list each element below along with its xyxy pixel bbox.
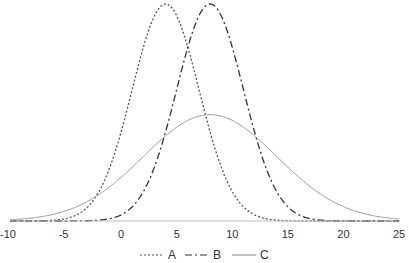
x-tick-label: 10 [226, 228, 238, 240]
x-axis-ticks: -10-50510152025 [0, 228, 405, 240]
x-tick-label: 15 [282, 228, 294, 240]
x-tick-label: 25 [393, 228, 405, 240]
plot-area [10, 4, 399, 221]
series-c-line [10, 115, 399, 220]
x-tick-label: -10 [0, 228, 16, 240]
legend-label-a: A [168, 248, 176, 262]
x-tick-label: 5 [174, 228, 180, 240]
normal-distribution-chart: -10-50510152025 ABC [0, 0, 409, 263]
x-tick-label: -5 [59, 228, 69, 240]
legend-label-c: C [260, 248, 269, 262]
series-b-line [10, 4, 399, 221]
series-a-line [10, 4, 399, 221]
x-tick-label: 0 [118, 228, 124, 240]
x-tick-label: 20 [337, 228, 349, 240]
legend-label-b: B [213, 248, 221, 262]
legend: ABC [140, 248, 269, 262]
